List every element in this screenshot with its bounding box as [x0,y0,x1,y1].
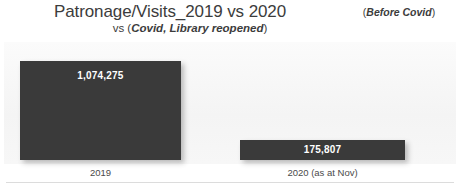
bottom-divider [6,182,454,183]
bar-2020[interactable]: 175,807 [240,140,405,160]
bar-value-label-2019: 1,074,275 [20,70,181,81]
subtitle-trail: ) [263,22,267,34]
chart-title: Patronage/Visits_2019 vs 2020 [0,2,340,22]
title-note-close-paren: ) [432,6,436,18]
bar-2019[interactable]: 1,074,275 [20,61,181,160]
category-label-2020: 2020 (as at Nov) [240,167,405,179]
category-label-2019: 2019 [20,167,181,179]
title-note-text: Before Covid [366,6,431,18]
bar-value-label-2020: 175,807 [240,144,405,155]
chart-title-row: Patronage/Visits_2019 vs 2020 (Before Co… [0,2,460,22]
chart-title-note: (Before Covid) [338,5,460,19]
chart-subtitle: vs (Covid, Library reopened) [0,21,380,36]
subtitle-lead: vs ( [113,22,132,34]
subtitle-emphasis: Covid, Library reopened [131,22,263,34]
chart-container: Patronage/Visits_2019 vs 2020 (Before Co… [0,0,460,189]
plot-area: 1,074,275 175,807 [4,42,456,164]
